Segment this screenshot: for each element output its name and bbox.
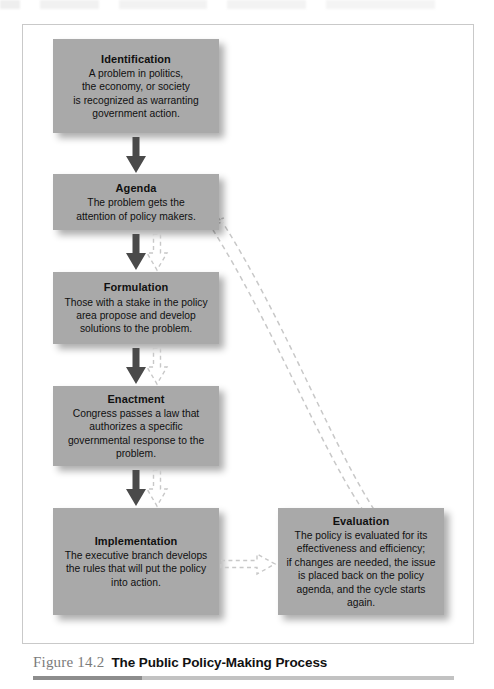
- arrow-feedback-formulation-down: [145, 348, 169, 384]
- stage-box-enactment: Enactment Congress passes a law that aut…: [53, 386, 219, 466]
- stage-title-identification: Identification: [101, 52, 171, 66]
- arrow-implementation-to-evaluation: [221, 553, 277, 575]
- stage-title-implementation: Implementation: [95, 534, 178, 548]
- stage-body-agenda: The problem gets the attention of policy…: [76, 196, 196, 223]
- figure-page: Identification A problem in politics, th…: [0, 0, 494, 689]
- arrow-identification-to-agenda: [124, 137, 148, 173]
- stage-body-identification: A problem in politics, the economy, or s…: [73, 67, 198, 121]
- stage-body-formulation: Those with a stake in the policy area pr…: [64, 296, 207, 336]
- arrow-feedback-enactment-down: [145, 470, 169, 506]
- stage-title-evaluation: Evaluation: [333, 514, 390, 528]
- stage-body-evaluation: The policy is evaluated for its effectiv…: [287, 529, 436, 609]
- caption-figure-number: Figure 14.2: [33, 654, 104, 671]
- stage-box-identification: Identification A problem in politics, th…: [53, 39, 219, 133]
- stage-title-enactment: Enactment: [107, 392, 164, 406]
- arrow-feedback-agenda-down: [145, 234, 169, 270]
- stage-box-agenda: Agenda The problem gets the attention of…: [53, 174, 219, 230]
- stage-title-formulation: Formulation: [104, 280, 169, 294]
- stage-body-enactment: Congress passes a law that authorizes a …: [68, 407, 204, 461]
- figure-caption: Figure 14.2 The Public Policy-Making Pro…: [33, 654, 461, 680]
- stage-box-evaluation: Evaluation The policy is evaluated for i…: [278, 508, 444, 615]
- stage-body-implementation: The executive branch develops the rules …: [65, 549, 208, 589]
- caption-text-line: Figure 14.2 The Public Policy-Making Pro…: [33, 654, 461, 671]
- stage-title-agenda: Agenda: [116, 181, 157, 195]
- caption-figure-title: The Public Policy-Making Process: [111, 655, 327, 670]
- stage-box-implementation: Implementation The executive branch deve…: [53, 508, 219, 615]
- stage-box-formulation: Formulation Those with a stake in the po…: [53, 272, 219, 344]
- caption-rule-dark-segment: [33, 676, 142, 680]
- figure-frame: Identification A problem in politics, th…: [22, 24, 474, 644]
- scan-artifact: [0, 0, 494, 9]
- caption-rule: [33, 676, 454, 680]
- caption-rule-light-segment: [142, 676, 454, 680]
